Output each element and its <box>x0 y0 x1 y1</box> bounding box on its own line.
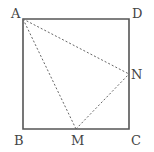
segment-am <box>23 19 76 129</box>
segment-an <box>23 19 129 74</box>
label-n: N <box>131 67 142 82</box>
label-d: D <box>132 6 142 21</box>
label-m: M <box>71 133 84 148</box>
label-c: C <box>131 133 141 148</box>
label-b: B <box>14 133 24 148</box>
geometry-diagram: A D B C N M <box>0 0 154 152</box>
segment-mn <box>76 74 129 129</box>
label-a: A <box>10 6 21 21</box>
square-abcd <box>23 19 129 129</box>
